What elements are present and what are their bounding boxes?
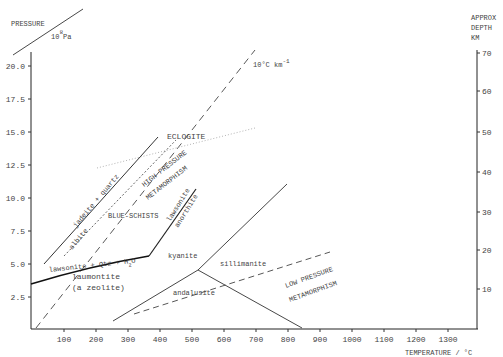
svg-text:15.0: 15.0 — [6, 128, 25, 137]
geotherm-label: 10°C km-1 — [253, 58, 290, 69]
svg-text:70: 70 — [482, 49, 492, 58]
y-right-axis-labels: APPROX DEPTH KM — [471, 14, 497, 42]
svg-text:APPROX: APPROX — [471, 14, 497, 22]
kyanite-label: kyanite — [168, 252, 197, 260]
svg-text:600: 600 — [217, 335, 232, 344]
svg-text:900: 900 — [313, 335, 328, 344]
svg-text:20.0: 20.0 — [6, 62, 25, 71]
laumontite-label: laumontite — [72, 272, 120, 281]
svg-text:300: 300 — [121, 335, 136, 344]
x-axis-label: TEMPERATURE / °C — [405, 349, 472, 357]
svg-text:1200: 1200 — [406, 335, 425, 344]
svg-text:40: 40 — [482, 168, 492, 177]
zeolite-label: (a zeolite) — [72, 283, 125, 292]
pt-diagram: PRESSURE 108Pa 20.0 17.5 15.0 12.5 10.0 … — [0, 0, 503, 357]
svg-text:5.0: 5.0 — [11, 260, 26, 269]
svg-text:7.5: 7.5 — [11, 227, 26, 236]
svg-text:10.0: 10.0 — [6, 194, 25, 203]
andalusite-label: andalusite — [173, 289, 215, 297]
svg-text:500: 500 — [185, 335, 200, 344]
y-right-ticks: 70 60 50 40 30 20 10 — [477, 49, 492, 294]
andalusite-sillimanite-boundary — [198, 270, 302, 328]
svg-text:400: 400 — [153, 335, 168, 344]
svg-text:10: 10 — [482, 285, 492, 294]
svg-text:1100: 1100 — [374, 335, 393, 344]
blue-schists-label: BLUE-SCHISTS — [108, 212, 158, 220]
svg-text:1300: 1300 — [438, 335, 457, 344]
eclogite-label: ECLOGITE — [167, 132, 206, 141]
svg-text:200: 200 — [89, 335, 104, 344]
svg-text:12.5: 12.5 — [6, 161, 25, 170]
svg-text:60: 60 — [482, 87, 492, 96]
sillimanite-label: sillimanite — [220, 260, 266, 268]
svg-text:2.5: 2.5 — [11, 293, 26, 302]
pressure-label: PRESSURE — [11, 20, 45, 28]
pressure-unit: 108Pa — [51, 29, 71, 41]
corner-diagonal — [13, 9, 83, 55]
svg-text:50: 50 — [482, 128, 492, 137]
svg-text:30: 30 — [482, 208, 492, 217]
svg-text:100: 100 — [57, 335, 72, 344]
albite-label: albite — [67, 227, 89, 251]
svg-text:DEPTH: DEPTH — [471, 24, 492, 32]
x-ticks: 100 200 300 400 500 600 700 800 900 1000… — [57, 329, 458, 344]
kyanite-sillimanite-boundary — [198, 184, 287, 270]
y-left-ticks: 20.0 17.5 15.0 12.5 10.0 7.5 5.0 2.5 — [6, 62, 31, 302]
svg-text:17.5: 17.5 — [6, 95, 25, 104]
svg-text:20: 20 — [482, 246, 492, 255]
svg-text:KM: KM — [471, 34, 479, 42]
jadeite-quartz-label: jadeite + quartz — [71, 173, 120, 230]
svg-text:800: 800 — [281, 335, 296, 344]
svg-text:1000: 1000 — [342, 335, 361, 344]
svg-text:700: 700 — [249, 335, 264, 344]
